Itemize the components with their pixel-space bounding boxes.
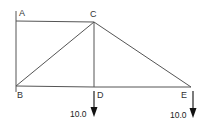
truss-diagram: A C B D E 10.0 10.0 [0,0,211,128]
node-label-C: C [90,9,97,19]
load-value-E: 10.0 [170,110,187,120]
node-label-D: D [97,90,104,100]
node-label-E: E [181,90,187,100]
load-arrow-E [190,91,197,118]
node-label-A: A [19,8,25,18]
member-CE [94,22,191,87]
arrowhead-icon [91,107,98,117]
member-BD [16,86,94,87]
arrowhead-icon [190,108,197,118]
load-value-D: 10.0 [70,109,87,119]
member-AC [16,21,94,22]
node-label-B: B [17,90,23,100]
member-BC [16,22,94,86]
